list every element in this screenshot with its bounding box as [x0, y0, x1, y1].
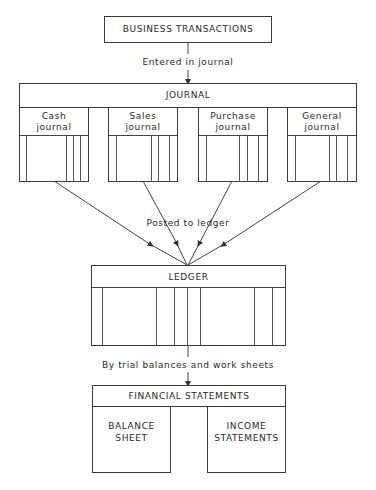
journal-title: JOURNAL	[20, 90, 356, 101]
ledger-title: LEDGER	[92, 272, 285, 283]
sales-journal-box: Sales journal	[108, 107, 178, 182]
income-statements-label-1: INCOME	[208, 421, 285, 432]
balance-sheet-label-2: SHEET	[93, 433, 170, 444]
general-journal-label-2: journal	[288, 122, 356, 133]
income-statements-box: INCOME STATEMENTS	[207, 406, 286, 473]
sales-journal-label-2: journal	[109, 122, 177, 133]
business-transactions-box: BUSINESS TRANSACTIONS	[104, 16, 272, 43]
connector-lines	[0, 0, 376, 490]
cash-journal-box: Cash journal	[19, 107, 89, 182]
ledger-box: LEDGER	[91, 265, 286, 346]
purchase-journal-box: Purchase journal	[198, 107, 268, 182]
cash-journal-label-2: journal	[20, 122, 88, 133]
purchase-journal-label-2: journal	[199, 122, 267, 133]
general-journal-box: General journal	[287, 107, 357, 182]
general-journal-label-1: General	[288, 111, 356, 122]
business-transactions-label: BUSINESS TRANSACTIONS	[105, 24, 271, 35]
purchase-journal-label-1: Purchase	[199, 111, 267, 122]
financial-statements-title: FINANCIAL STATEMENTS	[93, 391, 285, 402]
financial-statements-box: FINANCIAL STATEMENTS	[92, 385, 286, 407]
balance-sheet-label-1: BALANCE	[93, 421, 170, 432]
trial-balances-label: By trial balances and work sheets	[88, 360, 288, 371]
posted-to-ledger-label: Posted to ledger	[143, 218, 233, 229]
entered-in-journal-label: Entered in journal	[138, 57, 238, 68]
balance-sheet-box: BALANCE SHEET	[92, 406, 171, 473]
sales-journal-label-1: Sales	[109, 111, 177, 122]
cash-journal-label-1: Cash	[20, 111, 88, 122]
journal-box: JOURNAL	[19, 83, 357, 108]
income-statements-label-2: STATEMENTS	[208, 433, 285, 444]
